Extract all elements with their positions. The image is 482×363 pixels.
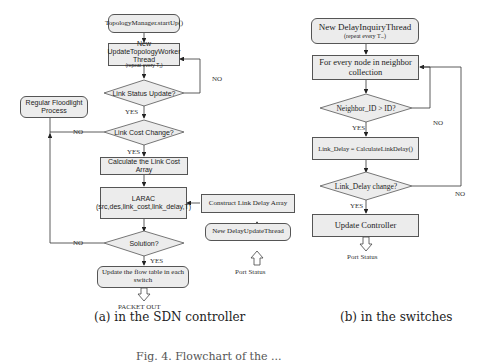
larac-title: LARAC: [132, 195, 155, 203]
neighbor-check-text: Neighbor_ID > ID?: [320, 101, 412, 115]
delay-change-text: Link_Delay change?: [320, 179, 412, 193]
label-yes-delay-change: YES: [350, 202, 363, 210]
link-status-text: Link Status Update?: [104, 86, 184, 100]
label-no-delay-change: NO: [455, 190, 465, 198]
for-every-node: For every node in neighbor collection: [312, 55, 419, 80]
larac-node: LARAC (src,des,link_cost,link_delay,T): [100, 187, 187, 219]
inquiry-thread-title: New DelayInquiryThread: [319, 23, 412, 33]
calc-delay-node: Link_Delay = CalculateLinkDelay(): [312, 137, 419, 160]
label-no-neighbor: NO: [433, 119, 443, 127]
calc-delay-label: Link_Delay = CalculateLinkDelay(): [318, 145, 413, 152]
start-node: TopologyManager.startUp(): [108, 14, 180, 33]
regular-floodlight-label: Regular Floodlight Process: [21, 99, 87, 114]
caption-b: (b) in the switches: [340, 310, 453, 324]
worker-thread-sub: (repeat every T₁): [125, 63, 162, 69]
update-controller-label: Update Controller: [335, 221, 397, 230]
construct-delay-node: Construct Link Delay Array: [201, 194, 295, 213]
inquiry-thread-node: New DelayInquiryThread (repeat every Tₓₑ…: [311, 18, 419, 44]
label-yes-solution: YES: [150, 257, 163, 265]
solution-text: Solution?: [104, 236, 184, 250]
label-no-link-cost: NO: [73, 128, 83, 136]
label-port-status-b: Port Status: [347, 253, 378, 261]
update-controller-node: Update Controller: [312, 214, 419, 237]
for-every-label: For every node in neighbor collection: [313, 58, 418, 77]
start-node-label: TopologyManager.startUp(): [105, 20, 183, 28]
delay-update-thread-label: New DelayUpdateThread: [212, 228, 284, 236]
update-flow-label: Update the flow table in each switch: [98, 269, 188, 284]
larac-args: (src,des,link_cost,link_delay,T): [96, 203, 191, 211]
figure-caption: Fig. 4. Flowchart of the ...: [136, 350, 282, 363]
label-yes-link-status: YES: [125, 108, 138, 116]
calc-cost-label: Calculate the Link Cost Array: [101, 158, 187, 173]
label-yes-link-cost: YES: [127, 148, 140, 156]
label-no-solution: NO: [73, 239, 83, 247]
link-cost-text: Link Cost Change?: [104, 125, 184, 139]
construct-delay-label: Construct Link Delay Array: [209, 200, 287, 208]
label-yes-neighbor: YES: [352, 124, 365, 132]
delay-update-thread-node: New DelayUpdateThread: [205, 223, 291, 241]
regular-floodlight-node: Regular Floodlight Process: [20, 96, 88, 118]
caption-a: (a) in the SDN controller: [94, 310, 245, 324]
worker-thread-node: New UpdateTopologyWorker Thread (repeat …: [108, 43, 180, 66]
label-no-link-status: NO: [212, 75, 222, 83]
inquiry-thread-sub: (repeat every Tₓₑ): [344, 33, 386, 40]
label-port-status-a: Port Status: [235, 268, 266, 276]
worker-thread-title: New UpdateTopologyWorker Thread: [107, 40, 180, 63]
update-flow-node: Update the flow table in each switch: [97, 266, 189, 288]
calc-cost-node: Calculate the Link Cost Array: [100, 157, 188, 175]
